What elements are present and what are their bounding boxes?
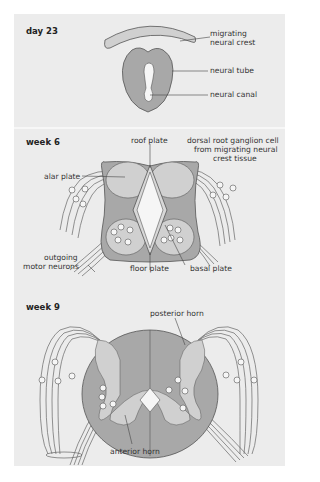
label-anterior-horn: anterior horn	[110, 447, 160, 456]
label-drg-1: dorsal root ganglion cell	[187, 136, 279, 145]
label-basal-plate: basal plate	[190, 264, 232, 273]
label-drg-2: from migrating neural	[194, 145, 278, 154]
stage-title-week9: week 9	[26, 302, 60, 312]
label-migrating: migrating	[210, 29, 247, 38]
label-outgoing: outgoing	[44, 253, 78, 262]
label-roof-plate: roof plate	[131, 136, 168, 145]
label-motor-neurons: motor neurons	[23, 262, 79, 271]
label-neural-tube: neural tube	[210, 66, 254, 75]
neural-canal-shape	[144, 63, 154, 102]
stage-title-day23: day 23	[26, 26, 58, 36]
stage-title-week6: week 6	[26, 137, 60, 147]
label-drg-3: crest tissue	[213, 154, 257, 163]
label-posterior-horn: posterior horn	[150, 309, 204, 318]
label-floor-plate: floor plate	[130, 264, 169, 273]
label-neural-crest: neural crest	[210, 38, 255, 47]
label-neural-canal: neural canal	[210, 90, 257, 99]
label-alar-plate: alar plate	[44, 172, 80, 181]
